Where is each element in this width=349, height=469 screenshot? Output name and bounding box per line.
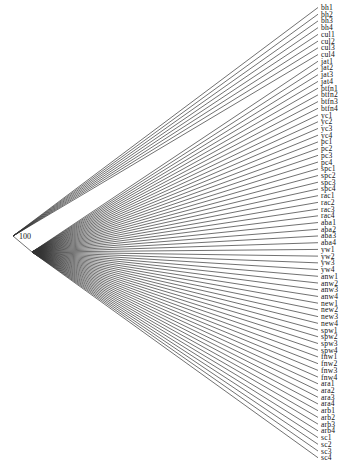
leaf-label-sc4: sc4 (321, 454, 332, 461)
figure-caption-cut-off (0, 463, 349, 469)
leaf-labels: bh1bh2bh3bh4cul1cul2cul3cul4jat1jat2jat3… (0, 0, 349, 469)
root-support-value: 100 (19, 232, 31, 241)
